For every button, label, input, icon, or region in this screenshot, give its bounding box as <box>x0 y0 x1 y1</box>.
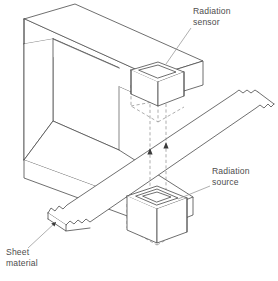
radiation-source-box <box>127 186 187 245</box>
diagram-canvas: Radiation sensor Radiation source Sheet … <box>0 0 278 281</box>
label-radiation-sensor: Radiation sensor <box>193 6 231 27</box>
sensor-label-line2: sensor <box>193 17 220 27</box>
sheet-label-line1: Sheet <box>6 247 30 257</box>
source-label-line1: Radiation <box>212 166 250 176</box>
label-radiation-source: Radiation source <box>212 166 250 187</box>
sheet-leader-line <box>28 222 56 248</box>
sheet-label-line2: material <box>6 258 38 268</box>
source-label-line2: source <box>212 177 239 187</box>
isometric-diagram: Radiation sensor Radiation source Sheet … <box>0 0 278 281</box>
label-sheet-material: Sheet material <box>6 247 38 268</box>
sensor-label-line1: Radiation <box>193 6 231 16</box>
radiation-sensor-box <box>131 62 184 122</box>
